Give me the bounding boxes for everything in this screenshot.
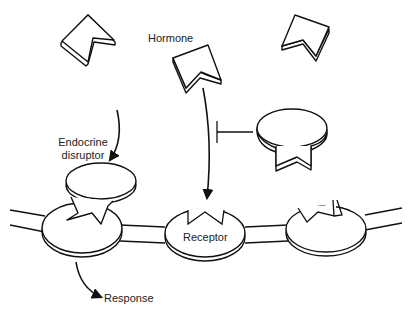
antagonist-shape-icon xyxy=(257,109,327,171)
receptor-label: Receptor xyxy=(183,231,228,244)
endocrine-disruptor-label: Endocrine disruptor xyxy=(58,136,108,162)
hormone-binding-arrow xyxy=(203,88,209,198)
hormone-shape-icon xyxy=(61,15,115,66)
disruptor-binding-arrow xyxy=(110,110,119,160)
response-label: Response xyxy=(104,292,154,305)
hormone-shape-icon xyxy=(173,45,221,93)
response-arrow xyxy=(76,262,101,297)
hormone-shape-icon xyxy=(282,15,329,61)
endocrine-disruptor-label-line1: Endocrine xyxy=(58,136,108,149)
receptor-right-shape xyxy=(286,200,366,256)
hormone-label: Hormone xyxy=(148,32,193,45)
endocrine-disruptor-shape-icon xyxy=(66,163,136,224)
inhibition-bar-icon xyxy=(217,121,253,143)
endocrine-disruptor-label-line2: disruptor xyxy=(58,149,108,162)
